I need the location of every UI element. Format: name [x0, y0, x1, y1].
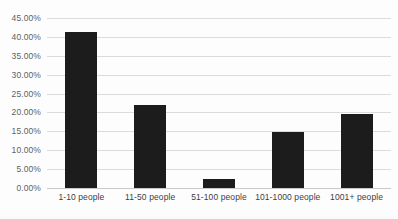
gridline: [47, 75, 391, 76]
x-axis-tick-label: 1001+ people: [330, 192, 383, 202]
y-axis-tick-label: 0.00%: [16, 183, 41, 193]
scan-artifact: [0, 209, 398, 219]
bar[interactable]: [272, 132, 304, 188]
x-axis-tick-label: 51-100 people: [191, 192, 247, 202]
gridline: [47, 56, 391, 57]
y-axis: 0.00%5.00%10.00%15.00%20.00%25.00%30.00%…: [0, 18, 44, 188]
bar[interactable]: [341, 114, 373, 188]
bar[interactable]: [65, 32, 97, 188]
y-axis-tick-label: 45.00%: [12, 13, 41, 23]
x-axis: 1-10 people11-50 people51-100 people101-…: [47, 192, 391, 210]
bar-chart: 0.00%5.00%10.00%15.00%20.00%25.00%30.00%…: [0, 0, 398, 219]
gridline: [47, 94, 391, 95]
y-axis-tick-label: 25.00%: [12, 89, 41, 99]
chart-title: [0, 0, 398, 2]
y-axis-tick-label: 10.00%: [12, 145, 41, 155]
y-axis-tick-label: 5.00%: [16, 164, 41, 174]
y-axis-tick-label: 20.00%: [12, 107, 41, 117]
gridline: [47, 112, 391, 113]
x-axis-tick-label: 1-10 people: [58, 192, 104, 202]
x-axis-tick-label: 11-50 people: [125, 192, 175, 202]
gridline: [47, 150, 391, 151]
y-axis-tick-label: 35.00%: [12, 51, 41, 61]
gridline: [47, 188, 391, 189]
y-axis-tick-label: 30.00%: [12, 70, 41, 80]
gridline: [47, 169, 391, 170]
y-axis-tick-label: 15.00%: [12, 126, 41, 136]
gridline: [47, 37, 391, 38]
bar[interactable]: [134, 105, 166, 188]
plot-area: [47, 18, 391, 188]
gridline: [47, 18, 391, 19]
x-axis-tick-label: 101-1000 people: [255, 192, 320, 202]
bar[interactable]: [203, 179, 235, 188]
gridline: [47, 131, 391, 132]
y-axis-tick-label: 40.00%: [12, 32, 41, 42]
